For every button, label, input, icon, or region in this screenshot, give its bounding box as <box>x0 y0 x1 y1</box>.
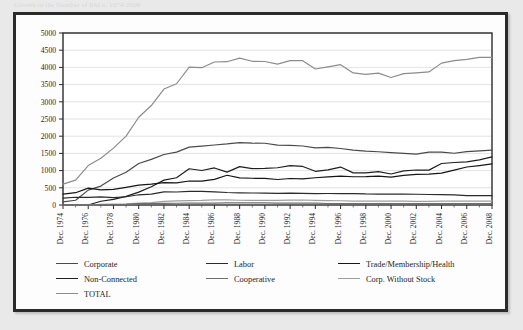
legend-item-trade-membership-health: Trade/Membership/Health <box>338 257 455 270</box>
figure-caption: Growth in the Number of PACs, 1974-2008 <box>0 0 523 11</box>
svg-text:Dec. 1978: Dec. 1978 <box>106 213 115 244</box>
svg-text:Dec. 2000: Dec. 2000 <box>384 213 393 244</box>
legend-swatch-non-connected <box>56 278 78 279</box>
figure-frame: 0500100015002000250030003500400045005000… <box>13 12 508 312</box>
svg-text:Dec. 2006: Dec. 2006 <box>460 213 469 244</box>
legend-label-labor: Labor <box>234 260 254 269</box>
svg-text:Dec. 1982: Dec. 1982 <box>157 213 166 244</box>
svg-text:Dec. 1980: Dec. 1980 <box>132 213 141 244</box>
legend-swatch-cooperative <box>206 278 228 279</box>
legend-swatch-trade-membership-health <box>338 263 360 264</box>
svg-text:Dec. 2004: Dec. 2004 <box>435 213 444 244</box>
legend-label-total: TOTAL <box>84 290 111 299</box>
legend-item-cooperative: Cooperative <box>206 272 275 285</box>
svg-text:Dec. 1998: Dec. 1998 <box>359 213 368 244</box>
svg-text:Dec. 1984: Dec. 1984 <box>182 213 191 244</box>
legend-item-corp-without-stock: Corp. Without Stock <box>338 272 435 285</box>
svg-text:2000: 2000 <box>41 132 56 141</box>
svg-text:0: 0 <box>52 201 56 210</box>
legend-item-corporate: Corporate <box>56 257 118 270</box>
svg-text:500: 500 <box>45 184 57 193</box>
svg-text:5000: 5000 <box>41 29 56 38</box>
svg-text:2500: 2500 <box>41 115 56 124</box>
svg-text:1000: 1000 <box>41 166 56 175</box>
svg-text:Dec. 1992: Dec. 1992 <box>283 213 292 244</box>
svg-text:3000: 3000 <box>41 98 56 107</box>
legend-label-trade-membership-health: Trade/Membership/Health <box>366 260 455 269</box>
legend-label-corporate: Corporate <box>84 260 118 269</box>
svg-text:Dec. 1986: Dec. 1986 <box>207 213 216 244</box>
legend-label-corp-without-stock: Corp. Without Stock <box>366 275 435 284</box>
svg-text:Dec. 1974: Dec. 1974 <box>56 213 65 244</box>
svg-text:Dec. 1994: Dec. 1994 <box>308 213 317 244</box>
legend-label-non-connected: Non-Connected <box>84 275 137 284</box>
svg-text:Dec. 2008: Dec. 2008 <box>485 213 494 244</box>
svg-text:1500: 1500 <box>41 149 56 158</box>
svg-text:4000: 4000 <box>41 63 56 72</box>
legend-swatch-total <box>56 293 78 294</box>
legend-swatch-corporate <box>56 263 78 264</box>
chart-legend: Corporate Labor Trade/Membership/Health … <box>38 257 498 305</box>
legend-item-non-connected: Non-Connected <box>56 272 137 285</box>
svg-text:4500: 4500 <box>41 46 56 55</box>
legend-item-total: TOTAL <box>56 287 111 300</box>
legend-swatch-corp-without-stock <box>338 278 360 279</box>
svg-text:Dec. 1996: Dec. 1996 <box>334 213 343 244</box>
svg-text:Dec. 1976: Dec. 1976 <box>81 213 90 244</box>
svg-text:3500: 3500 <box>41 80 56 89</box>
svg-text:Dec. 1990: Dec. 1990 <box>258 213 267 244</box>
legend-swatch-labor <box>206 263 228 264</box>
legend-label-cooperative: Cooperative <box>234 275 275 284</box>
svg-text:Dec. 2002: Dec. 2002 <box>409 213 418 244</box>
svg-text:Dec. 1988: Dec. 1988 <box>233 213 242 244</box>
legend-item-labor: Labor <box>206 257 254 270</box>
